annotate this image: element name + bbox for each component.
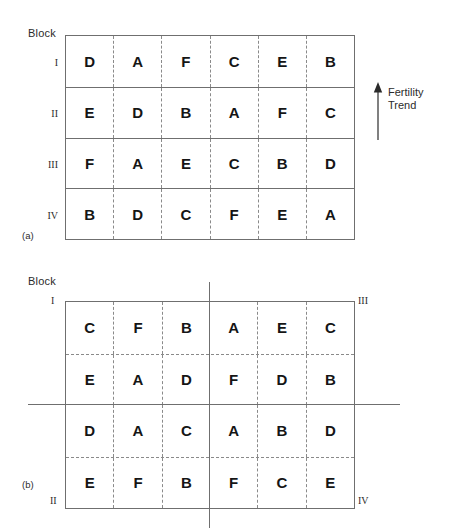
plot-cell: E [161,139,209,189]
plot-cell: F [113,302,161,354]
plot-cell: A [113,139,161,189]
figure-b: Block (b) I III II IV C F B A E C E A D … [0,264,449,528]
table-row: E F B F C E [66,457,354,509]
plot-cell: A [210,302,257,354]
figure-a: Block (a) I II III IV D A F C E B E D B … [0,0,449,264]
figure-b-panel-label: (b) [22,479,34,490]
figure-b-corner-top-right: III [358,295,368,306]
figure-a-row-label-1: I [38,57,58,68]
table-row: D A F C E B [66,36,354,87]
up-arrow-icon [372,82,384,140]
plot-cell: D [66,405,113,457]
plot-cell: E [66,458,113,509]
table-row: E A D F D B [66,354,354,406]
plot-cell: E [258,36,306,87]
figure-b-plot-grid: C F B A E C E A D F D B D A C A B D E F … [65,301,355,509]
figure-a-plot-grid: D A F C E B E D B A F C F A E C B D B D … [65,35,355,240]
fertility-trend-label: Fertility Trend [388,86,423,112]
fertility-trend-line1: Fertility [388,86,423,99]
plot-cell: F [258,88,306,138]
plot-cell: D [66,36,113,87]
plot-cell: C [210,139,258,189]
table-row: C F B A E C [66,302,354,354]
plot-cell: D [113,88,161,138]
plot-cell: E [66,88,113,138]
plot-cell: E [257,302,305,354]
table-row: D A C A B D [66,405,354,457]
figure-a-block-label: Block [28,27,56,39]
plot-cell: A [210,405,257,457]
plot-cell: C [66,302,113,354]
figure-b-corner-top-left: I [51,295,54,306]
plot-cell: D [306,139,354,189]
plot-cell: B [306,36,354,87]
table-row: F A E C B D [66,138,354,189]
plot-cell: C [306,302,354,354]
plot-cell: A [113,405,161,457]
plot-cell: D [257,355,305,406]
plot-cell: C [257,458,305,509]
table-row: B D C F E A [66,188,354,239]
plot-cell: F [210,189,258,239]
plot-cell: D [113,189,161,239]
plot-cell: A [113,36,161,87]
plot-cell: B [66,189,113,239]
plot-cell: F [210,355,257,406]
plot-cell: C [161,189,209,239]
plot-cell: E [258,189,306,239]
plot-cell: E [66,355,113,406]
plot-cell: F [113,458,161,509]
figure-b-vertical-split-line [209,282,210,528]
plot-cell: B [162,302,210,354]
plot-cell: A [113,355,161,406]
figure-a-row-label-4: IV [34,210,58,221]
plot-cell: B [306,355,354,406]
figure-a-panel-label: (a) [22,230,34,241]
figure-b-block-label: Block [28,275,56,287]
figure-b-corner-bottom-left: II [50,495,57,506]
figure-b-corner-bottom-right: IV [358,495,369,506]
figure-a-row-label-2: II [38,108,58,119]
figure-a-row-label-3: III [34,159,58,170]
plot-cell: D [306,405,354,457]
plot-cell: F [161,36,209,87]
table-row: E D B A F C [66,87,354,138]
plot-cell: C [162,405,210,457]
plot-cell: C [210,36,258,87]
plot-cell: B [258,139,306,189]
fertility-trend-line2: Trend [388,99,423,112]
plot-cell: D [162,355,210,406]
plot-cell: B [161,88,209,138]
plot-cell: C [306,88,354,138]
plot-cell: F [210,458,257,509]
plot-cell: A [210,88,258,138]
plot-cell: F [66,139,113,189]
figure-b-horizontal-split-line [28,404,400,405]
plot-cell: A [306,189,354,239]
plot-cell: B [257,405,305,457]
plot-cell: B [162,458,210,509]
plot-cell: E [306,458,354,509]
